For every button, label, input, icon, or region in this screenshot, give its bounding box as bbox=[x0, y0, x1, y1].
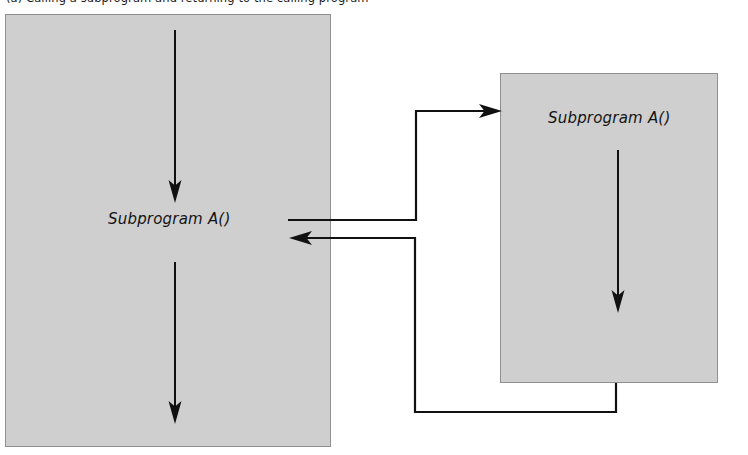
call-connector bbox=[288, 104, 502, 220]
figure-canvas: (a) Calling a subprogram and returning t… bbox=[0, 0, 748, 455]
return-connector bbox=[289, 231, 616, 412]
caller-flow-arrow-before-call bbox=[169, 30, 182, 203]
connector-overlay bbox=[0, 0, 748, 455]
caller-flow-arrow-after-return bbox=[169, 262, 182, 424]
subprogram-flow-arrow bbox=[612, 150, 625, 313]
